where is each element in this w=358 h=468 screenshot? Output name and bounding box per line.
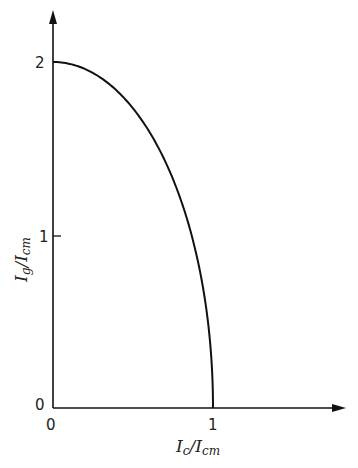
y-tick-label-0: 0 — [35, 396, 45, 414]
y-tick-label-1: 1 — [39, 228, 49, 246]
y-tick-label-2: 2 — [35, 54, 45, 72]
y-axis-label: Ig/Icm — [11, 237, 33, 283]
x-axis-arrow-icon — [332, 404, 346, 412]
x-tick-label-0: 0 — [46, 416, 56, 434]
x-tick-label-1: 1 — [208, 416, 218, 434]
chart: 2 1 0 0 1 Ic/Icm Ig/Icm — [0, 0, 358, 468]
x-axis-label: Ic/Icm — [175, 436, 220, 458]
data-curve — [53, 62, 213, 408]
y-axis-arrow-icon — [49, 10, 57, 24]
